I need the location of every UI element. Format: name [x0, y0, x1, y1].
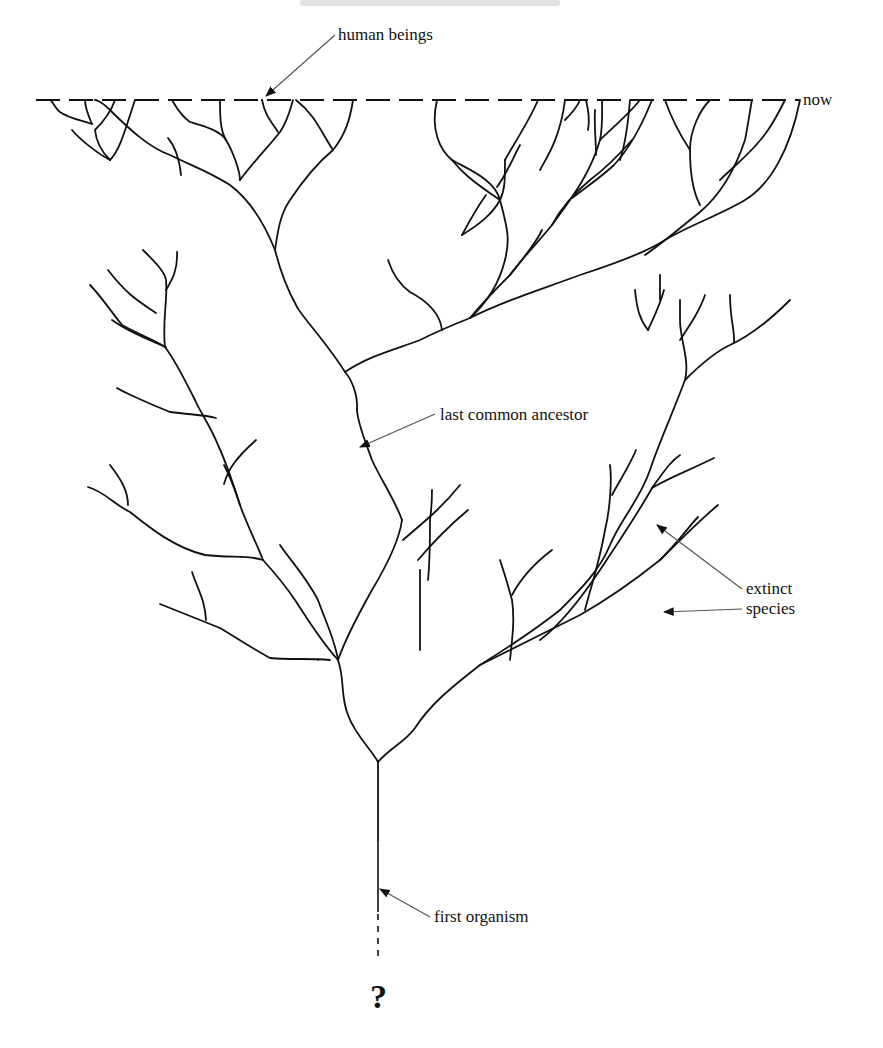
tree-branches — [50, 100, 800, 960]
header-bleed-text — [300, 0, 560, 6]
annotation-first-organism: first organism — [380, 889, 529, 926]
annotation-last-common-ancestor: last common ancestor — [360, 405, 589, 447]
label-first-organism: first organism — [434, 907, 529, 926]
label-human-beings: human beings — [338, 25, 433, 44]
tree-of-life-diagram: human beings now last common ancestor ex… — [0, 0, 883, 1048]
label-species-text: species — [746, 599, 795, 618]
diagram-stage: human beings now last common ancestor ex… — [0, 0, 883, 1048]
label-extinct: extinct — [746, 579, 793, 598]
annotation-extinct-species: extinct species — [657, 525, 795, 618]
label-last-common-ancestor: last common ancestor — [440, 405, 589, 424]
label-now: now — [803, 90, 833, 109]
annotation-human-beings: human beings — [266, 25, 433, 96]
question-mark: ? — [370, 978, 387, 1015]
